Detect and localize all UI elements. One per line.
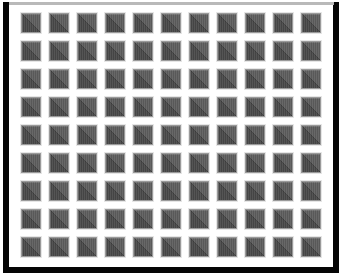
diagonal-split-tile	[50, 154, 68, 172]
diagonal-split-tile	[78, 154, 96, 172]
diagonal-split-tile	[218, 98, 236, 116]
diagonal-split-tile	[162, 14, 180, 32]
diagonal-split-tile	[78, 14, 96, 32]
diagonal-split-tile	[134, 42, 152, 60]
diagonal-split-tile	[302, 98, 320, 116]
diagonal-split-tile	[162, 238, 180, 256]
tile-grid	[22, 14, 320, 256]
diagonal-split-tile	[162, 210, 180, 228]
diagonal-split-tile	[106, 182, 124, 200]
diagonal-split-tile	[134, 14, 152, 32]
diagonal-split-tile	[274, 154, 292, 172]
diagonal-split-tile	[218, 154, 236, 172]
diagonal-split-tile	[50, 14, 68, 32]
diagonal-split-tile	[190, 70, 208, 88]
diagonal-split-tile	[274, 70, 292, 88]
diagonal-split-tile	[274, 210, 292, 228]
diagonal-split-tile	[218, 70, 236, 88]
diagonal-split-tile	[274, 126, 292, 144]
diagonal-split-tile	[162, 70, 180, 88]
diagonal-split-tile	[22, 210, 40, 228]
diagonal-split-tile	[274, 98, 292, 116]
diagonal-split-tile	[274, 42, 292, 60]
diagonal-split-tile	[246, 14, 264, 32]
diagonal-split-tile	[162, 154, 180, 172]
diagonal-split-tile	[50, 98, 68, 116]
diagonal-split-tile	[274, 14, 292, 32]
diagonal-split-tile	[190, 182, 208, 200]
diagonal-split-tile	[78, 210, 96, 228]
diagonal-split-tile	[218, 210, 236, 228]
diagonal-split-tile	[78, 126, 96, 144]
diagonal-split-tile	[22, 70, 40, 88]
diagonal-split-tile	[106, 42, 124, 60]
diagonal-split-tile	[302, 154, 320, 172]
diagonal-split-tile	[78, 238, 96, 256]
diagonal-split-tile	[162, 98, 180, 116]
diagonal-split-tile	[246, 182, 264, 200]
diagonal-split-tile	[246, 98, 264, 116]
diagonal-split-tile	[302, 182, 320, 200]
diagonal-split-tile	[246, 70, 264, 88]
diagonal-split-tile	[190, 210, 208, 228]
diagonal-split-tile	[302, 210, 320, 228]
diagonal-split-tile	[106, 14, 124, 32]
diagonal-split-tile	[78, 98, 96, 116]
diagonal-split-tile	[190, 14, 208, 32]
diagonal-split-tile	[246, 154, 264, 172]
diagonal-split-tile	[50, 238, 68, 256]
diagonal-split-tile	[22, 42, 40, 60]
diagonal-split-tile	[274, 238, 292, 256]
diagonal-split-tile	[190, 126, 208, 144]
diagonal-split-tile	[134, 238, 152, 256]
diagonal-split-tile	[162, 182, 180, 200]
diagonal-split-tile	[106, 238, 124, 256]
figure-canvas	[0, 0, 344, 278]
diagonal-split-tile	[190, 154, 208, 172]
diagonal-split-tile	[22, 238, 40, 256]
diagonal-split-tile	[134, 70, 152, 88]
diagonal-split-tile	[190, 42, 208, 60]
diagonal-split-tile	[134, 210, 152, 228]
diagonal-split-tile	[302, 126, 320, 144]
diagonal-split-tile	[22, 154, 40, 172]
diagonal-split-tile	[22, 98, 40, 116]
diagonal-split-tile	[302, 14, 320, 32]
diagonal-split-tile	[78, 182, 96, 200]
diagonal-split-tile	[50, 210, 68, 228]
diagonal-split-tile	[22, 182, 40, 200]
diagonal-split-tile	[162, 126, 180, 144]
diagonal-split-tile	[106, 70, 124, 88]
diagonal-split-tile	[134, 98, 152, 116]
diagonal-split-tile	[50, 182, 68, 200]
diagonal-split-tile	[190, 238, 208, 256]
diagonal-split-tile	[106, 210, 124, 228]
diagonal-split-tile	[134, 182, 152, 200]
diagonal-split-tile	[218, 182, 236, 200]
diagonal-split-tile	[246, 210, 264, 228]
diagonal-split-tile	[134, 126, 152, 144]
diagonal-split-tile	[50, 126, 68, 144]
diagonal-split-tile	[78, 70, 96, 88]
diagonal-split-tile	[106, 126, 124, 144]
diagonal-split-tile	[302, 42, 320, 60]
diagonal-split-tile	[218, 238, 236, 256]
diagonal-split-tile	[246, 238, 264, 256]
outer-border-top-fade	[9, 2, 334, 5]
diagonal-split-tile	[22, 14, 40, 32]
diagonal-split-tile	[246, 126, 264, 144]
diagonal-split-tile	[274, 182, 292, 200]
diagonal-split-tile	[218, 42, 236, 60]
diagonal-split-tile	[22, 126, 40, 144]
diagonal-split-tile	[106, 154, 124, 172]
diagonal-split-tile	[218, 126, 236, 144]
diagonal-split-tile	[50, 70, 68, 88]
diagonal-split-tile	[218, 14, 236, 32]
diagonal-split-tile	[50, 42, 68, 60]
diagonal-split-tile	[246, 42, 264, 60]
diagonal-split-tile	[134, 154, 152, 172]
diagonal-split-tile	[302, 70, 320, 88]
diagonal-split-tile	[78, 42, 96, 60]
diagonal-split-tile	[162, 42, 180, 60]
diagonal-split-tile	[106, 98, 124, 116]
